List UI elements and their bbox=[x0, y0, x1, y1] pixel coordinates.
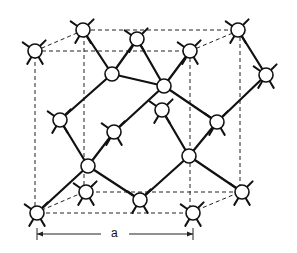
atom-corner-top-front-left bbox=[23, 40, 46, 63]
bond-stub bbox=[194, 57, 198, 64]
bond-stub bbox=[132, 206, 136, 213]
atom-sphere bbox=[186, 206, 200, 220]
atom-interior-upper-left bbox=[105, 67, 119, 81]
atom-sphere bbox=[259, 68, 273, 82]
lattice-constant-label: a bbox=[111, 226, 118, 240]
bond-stub bbox=[222, 111, 228, 117]
bond-stub bbox=[41, 219, 45, 226]
atom-corner-bottom-back-right bbox=[230, 181, 253, 204]
bond-stub bbox=[150, 101, 157, 106]
atom-interior-mid-back bbox=[150, 99, 173, 122]
bond-stub bbox=[48, 111, 55, 116]
bond-stub bbox=[74, 183, 81, 188]
bond-stub bbox=[181, 204, 188, 209]
bond-stub bbox=[64, 126, 68, 133]
bond-stub bbox=[142, 28, 148, 34]
bond-stub bbox=[254, 66, 261, 71]
atom-sphere bbox=[30, 206, 44, 220]
bond-stub bbox=[167, 99, 173, 105]
bond-stub bbox=[234, 198, 238, 205]
bond-stub bbox=[247, 181, 253, 187]
bond-stub bbox=[91, 181, 97, 187]
bond-stub bbox=[88, 19, 94, 25]
bond-stub bbox=[78, 198, 82, 205]
atom-face-top bbox=[125, 28, 148, 51]
bond-stub bbox=[39, 57, 43, 64]
bond-stub bbox=[75, 36, 79, 43]
atom-sphere bbox=[107, 125, 121, 139]
bond-stub bbox=[270, 81, 274, 88]
bond-stub bbox=[230, 36, 234, 43]
bond-stub bbox=[195, 40, 201, 46]
bond-stub bbox=[27, 57, 31, 64]
bond-stub bbox=[23, 42, 30, 47]
atom-sphere bbox=[79, 185, 93, 199]
bond-stub bbox=[29, 219, 33, 226]
atom-face-left bbox=[48, 109, 71, 132]
bond-stub bbox=[178, 42, 185, 47]
atom-interior-lower-right bbox=[182, 149, 196, 163]
atom-corner-top-back-right bbox=[226, 19, 249, 42]
bond-stub bbox=[25, 204, 32, 209]
atom-sphere bbox=[155, 103, 169, 117]
bond-stub bbox=[166, 116, 170, 123]
bond-stub bbox=[154, 116, 158, 123]
atom-corner-bottom-front-right bbox=[181, 202, 204, 225]
atom-sphere bbox=[130, 32, 144, 46]
atom-sphere bbox=[76, 23, 90, 37]
atom-corner-bottom-front-left bbox=[25, 202, 48, 225]
arrowhead-right bbox=[187, 232, 193, 237]
atom-sphere bbox=[182, 149, 196, 163]
bond-stub bbox=[118, 138, 122, 145]
atom-sphere bbox=[235, 185, 249, 199]
bond-stub bbox=[243, 19, 249, 25]
atom-sphere bbox=[28, 44, 42, 58]
atom-sphere bbox=[53, 113, 67, 127]
bond-stub bbox=[40, 40, 46, 46]
bond-stub bbox=[221, 128, 225, 135]
atoms bbox=[23, 19, 277, 225]
bond-stub bbox=[205, 113, 212, 118]
atom-sphere bbox=[231, 23, 245, 37]
atom-interior-center bbox=[102, 121, 125, 144]
atom-sphere bbox=[157, 79, 171, 93]
diamond-cubic-diagram bbox=[0, 0, 297, 253]
bond-stub bbox=[90, 198, 94, 205]
bond-stub bbox=[246, 198, 250, 205]
bond-stub bbox=[271, 64, 277, 70]
bond-stub bbox=[52, 126, 56, 133]
bond-stub bbox=[226, 21, 233, 26]
bond-stub bbox=[185, 219, 189, 226]
atom-sphere bbox=[210, 115, 224, 129]
bond-stub bbox=[144, 206, 148, 213]
atom-face-bottom bbox=[128, 189, 151, 212]
atom-corner-bottom-back-left bbox=[74, 181, 97, 204]
atom-sphere bbox=[133, 193, 147, 207]
bond-stub bbox=[230, 183, 237, 188]
atom-interior-upper-right bbox=[157, 79, 171, 93]
atom-interior-lower-left bbox=[81, 159, 95, 173]
atom-sphere bbox=[105, 67, 119, 81]
bond-stub bbox=[125, 30, 132, 35]
atom-sphere bbox=[183, 44, 197, 58]
bond bbox=[112, 74, 164, 86]
bond-stub bbox=[71, 21, 78, 26]
arrowhead-left bbox=[37, 232, 43, 237]
atom-sphere bbox=[81, 159, 95, 173]
bond-stub bbox=[197, 219, 201, 226]
atom-corner-top-front-right bbox=[178, 40, 201, 63]
bond-stub bbox=[102, 123, 109, 128]
